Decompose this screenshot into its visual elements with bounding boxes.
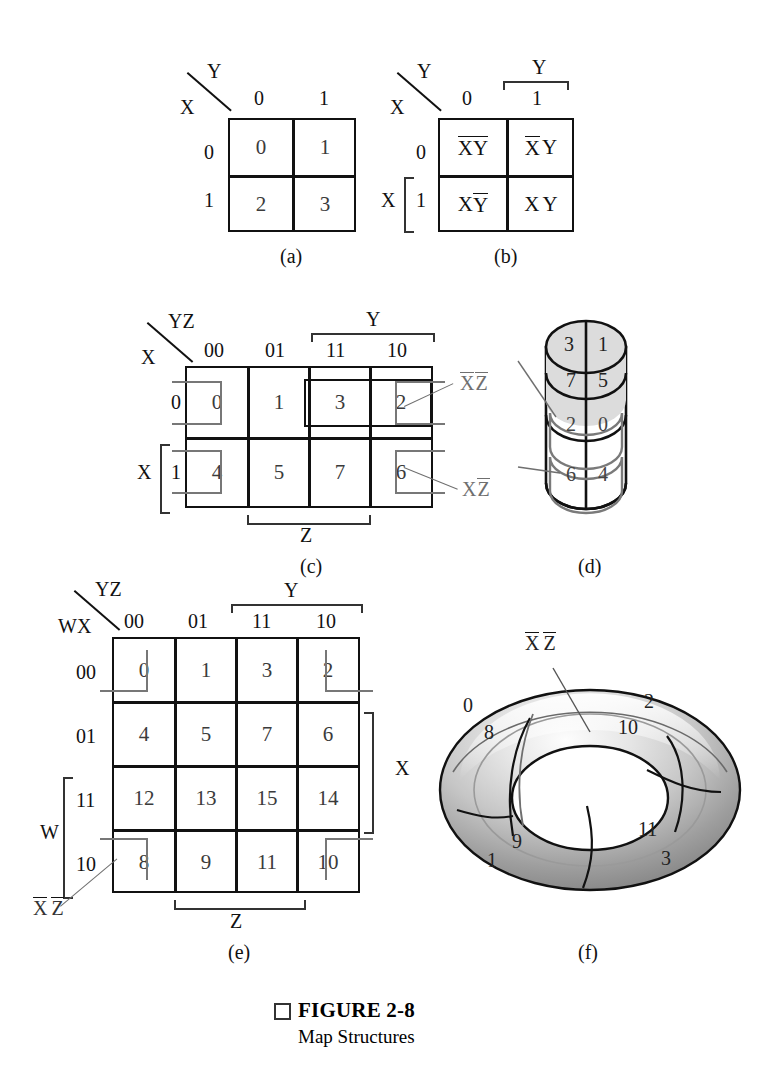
panel-label-e: (e) xyxy=(228,942,250,962)
cylinder-cell-7: 7 xyxy=(566,370,576,390)
col-header-e-01: 01 xyxy=(188,611,208,631)
group-loop-x-zbar-right-c xyxy=(395,450,445,494)
literal-x-bar: X xyxy=(458,136,473,159)
literal-x-bar: X xyxy=(525,632,539,654)
left-bracket-label-b: X xyxy=(381,190,395,210)
literal-x-bar: X xyxy=(460,372,474,394)
kmap-a-cell-1: 1 xyxy=(294,120,356,175)
col-header-e-00: 00 xyxy=(124,611,144,631)
panel-label-c: (c) xyxy=(300,556,322,576)
top-bracket-c xyxy=(311,333,435,342)
literal-y: Y xyxy=(540,192,558,217)
left-bracket-c xyxy=(160,444,170,514)
annotation-x-zbar-c: XZ xyxy=(462,478,490,500)
kmap-e-cell-5: 5 xyxy=(176,703,236,765)
corner-top-var-a: Y xyxy=(207,61,221,81)
literal-x: X xyxy=(524,192,539,217)
kmap-b-cell-11: XY xyxy=(508,177,574,232)
group-loop-x-zbar-left-c xyxy=(172,450,222,494)
bottom-bracket-label-e: Z xyxy=(230,911,242,931)
kmap-e-cell-6: 6 xyxy=(298,703,358,765)
top-bracket-label-c: Y xyxy=(366,309,380,329)
group-loop-xbar-zbar-left-c xyxy=(172,381,222,425)
col-header-c-00: 00 xyxy=(204,340,224,360)
col-header-a-1: 1 xyxy=(319,88,329,108)
cylinder-cell-5: 5 xyxy=(598,370,608,390)
literal-x: X xyxy=(458,192,473,217)
literal-z-bar: Z xyxy=(51,897,63,919)
kmap-e-cell-7: 7 xyxy=(237,703,297,765)
top-bracket-b xyxy=(503,81,569,90)
top-bracket-label-b: Y xyxy=(532,57,546,77)
cylinder-cell-1: 1 xyxy=(598,334,608,354)
literal-x-bar: X xyxy=(525,136,540,159)
col-header-c-01: 01 xyxy=(265,340,285,360)
row-header-e-10: 10 xyxy=(76,854,96,874)
corner-bottom-var-a: X xyxy=(180,97,194,117)
literal-x-bar: X xyxy=(33,897,47,919)
corner-top-var-c: YZ xyxy=(168,311,195,331)
torus-cell-10: 10 xyxy=(618,717,638,737)
bottom-bracket-label-c: Z xyxy=(300,525,312,545)
kmap-e-cell-11: 11 xyxy=(237,831,297,893)
torus-cell-11: 11 xyxy=(638,819,657,839)
kmap-e-cell-9: 9 xyxy=(176,831,236,893)
top-bracket-label-e: Y xyxy=(284,580,298,600)
left-bracket-e xyxy=(63,777,73,899)
row-header-a-1: 1 xyxy=(204,190,214,210)
cylinder-cell-6: 6 xyxy=(566,464,576,484)
col-header-e-10: 10 xyxy=(316,611,336,631)
left-bracket-label-e: W xyxy=(40,822,59,842)
right-bracket-label-e: X xyxy=(395,758,409,778)
cylinder-cell-0: 0 xyxy=(598,414,608,434)
kmap-b-cell-01: XY xyxy=(508,120,574,175)
caption-marker-icon xyxy=(274,1003,291,1020)
col-header-c-11: 11 xyxy=(326,340,345,360)
torus-cell-8: 8 xyxy=(484,722,494,742)
literal-z-bar: Z xyxy=(477,478,489,500)
torus-diagram-f xyxy=(435,640,755,940)
col-header-e-11: 11 xyxy=(252,611,271,631)
corner-bottom-var-e: WX xyxy=(58,616,91,636)
cylinder-cell-3: 3 xyxy=(564,334,574,354)
col-header-b-0: 0 xyxy=(462,88,472,108)
group-loop-corner-cell-2-e xyxy=(325,650,373,692)
kmap-e-cell-13: 13 xyxy=(176,767,236,829)
kmap-c-cell-7: 7 xyxy=(310,439,370,506)
literal-y: Y xyxy=(540,135,557,160)
group-loop-corner-cell-0-e xyxy=(100,650,148,692)
kmap-a-cell-3: 3 xyxy=(294,177,356,232)
corner-bottom-var-c: X xyxy=(141,347,155,367)
kmap-e-cell-3: 3 xyxy=(237,639,297,701)
kmap-e-cell-15: 15 xyxy=(237,767,297,829)
kmap-b: XY XY XY XY xyxy=(438,118,574,232)
kmap-b-cell-00: XY xyxy=(440,120,506,175)
kmap-a-cell-0: 0 xyxy=(230,120,292,175)
col-header-a-0: 0 xyxy=(254,88,264,108)
figure-2-8: Y X 0 1 0 1 0 1 2 3 (a) Y X 0 1 Y 0 1 X … xyxy=(0,0,776,1089)
row-header-b-1: 1 xyxy=(416,190,426,210)
group-loop-corner-cell-8-e xyxy=(100,838,148,880)
kmap-e-cell-4: 4 xyxy=(114,703,174,765)
torus-cell-3: 3 xyxy=(661,848,671,868)
kmap-e-cell-14: 14 xyxy=(298,767,358,829)
literal-y-bar: Y xyxy=(473,136,488,159)
kmap-a-cell-2: 2 xyxy=(230,177,292,232)
panel-label-b: (b) xyxy=(494,246,517,266)
panel-label-d: (d) xyxy=(578,556,601,576)
kmap-a: 0 1 2 3 xyxy=(228,118,356,232)
kmap-b-cell-10: XY xyxy=(440,177,506,232)
left-bracket-label-c: X xyxy=(137,462,151,482)
row-header-e-01: 01 xyxy=(76,726,96,746)
right-bracket-e xyxy=(364,712,374,834)
left-bracket-b xyxy=(404,177,414,233)
literal-z-bar: Z xyxy=(543,632,555,654)
annotation-xbar-zbar-e: XZ xyxy=(33,897,64,919)
col-header-b-1: 1 xyxy=(532,88,542,108)
kmap-e-cell-1: 1 xyxy=(176,639,236,701)
torus-cell-9: 9 xyxy=(512,831,522,851)
kmap-c-cell-1: 1 xyxy=(249,368,309,437)
row-header-b-0: 0 xyxy=(416,142,426,162)
cylinder-cell-4: 4 xyxy=(598,464,608,484)
group-loop-xbar-zbar-right-c xyxy=(395,381,445,425)
